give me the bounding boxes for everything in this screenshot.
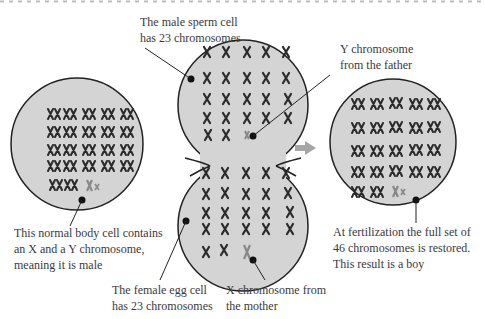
y-label-line2: from the father <box>340 57 413 73</box>
body-label-line2: an X and a Y chromosome, <box>14 241 163 257</box>
egg-label-line1: The female egg cell <box>112 282 213 298</box>
body-label-line3: meaning it is male <box>14 257 163 273</box>
right-arrow-icon <box>295 141 316 155</box>
x-label-line1: X chromosome from <box>226 282 326 298</box>
result-label-line3: This result is a boy <box>333 256 471 272</box>
sperm-label: The male sperm cell has 23 chromosomes <box>140 14 241 46</box>
result-label: At fertilization the full set of 46 chro… <box>333 224 471 272</box>
result-label-line2: 46 chromosomes is restored. <box>333 240 471 256</box>
egg-label: The female egg cell has 23 chromosomes <box>112 282 213 314</box>
sperm-label-line2: has 23 chromosomes <box>140 30 241 46</box>
body-cell-label: This normal body cell contains an X and … <box>14 225 163 273</box>
male-body-cell <box>11 78 143 226</box>
x-chromosome-label: X chromosome from the mother <box>226 282 326 314</box>
result-label-line1: At fertilization the full set of <box>333 224 471 240</box>
sperm-label-line1: The male sperm cell <box>140 14 241 30</box>
x-label-line2: the mother <box>226 298 326 314</box>
y-chromosome-label: Y chromosome from the father <box>340 41 413 73</box>
body-label-line1: This normal body cell contains <box>14 225 163 241</box>
egg-label-line2: has 23 chromosomes <box>112 298 213 314</box>
y-label-line1: Y chromosome <box>340 41 413 57</box>
zygote-cell <box>330 79 456 223</box>
